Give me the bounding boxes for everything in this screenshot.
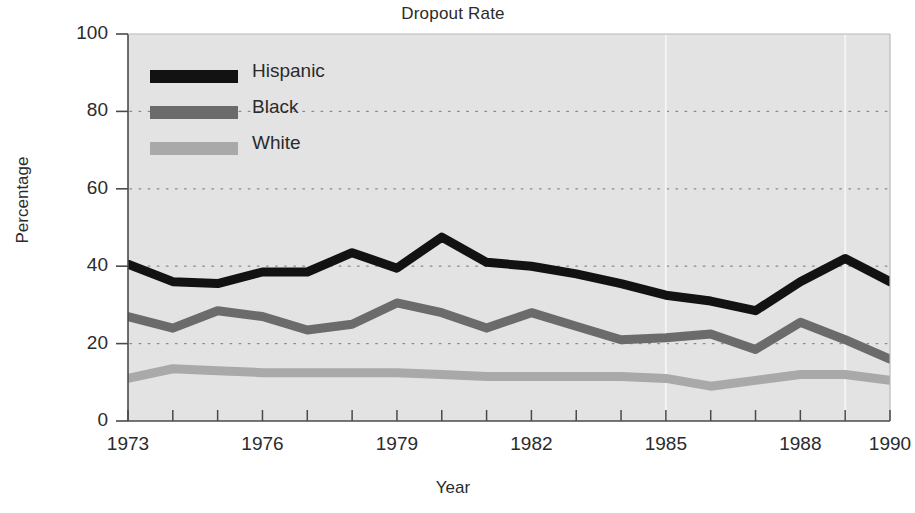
legend-label-black: Black — [252, 96, 298, 118]
legend-swatch-white — [150, 142, 238, 155]
y-tick-label: 0 — [38, 409, 108, 431]
y-tick-label: 80 — [38, 99, 108, 121]
x-tick-label: 1979 — [357, 433, 437, 455]
x-tick-label: 1985 — [626, 433, 706, 455]
x-axis-title: Year — [0, 478, 906, 498]
x-tick-label: 1990 — [850, 433, 915, 455]
y-tick-label: 60 — [38, 177, 108, 199]
legend-swatch-hispanic — [150, 70, 238, 83]
x-tick-label: 1982 — [491, 433, 571, 455]
y-tick-label: 40 — [38, 254, 108, 276]
plot-background — [128, 34, 890, 421]
legend-swatch-black — [150, 106, 238, 119]
legend-label-hispanic: Hispanic — [252, 60, 325, 82]
x-tick-label: 1973 — [88, 433, 168, 455]
x-tick-label: 1988 — [760, 433, 840, 455]
legend-label-white: White — [252, 132, 301, 154]
y-tick-label: 100 — [38, 22, 108, 44]
x-tick-label: 1976 — [222, 433, 302, 455]
y-tick-label: 20 — [38, 332, 108, 354]
y-axis-ticks — [116, 34, 128, 421]
y-axis-title: Percentage — [13, 130, 33, 270]
